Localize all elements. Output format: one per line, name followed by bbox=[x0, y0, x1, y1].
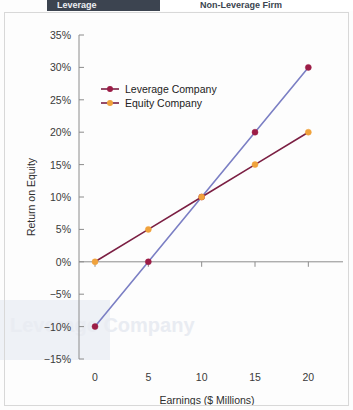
legend-swatch-marker bbox=[107, 86, 113, 92]
y-axis-tick-label: 20% bbox=[50, 126, 71, 138]
series-data-point bbox=[252, 129, 258, 135]
series-data-point bbox=[145, 226, 151, 232]
x-axis: 05101520 bbox=[79, 262, 343, 383]
y-axis-tick-label: 30% bbox=[50, 61, 71, 73]
x-axis-tick-label: 0 bbox=[92, 371, 98, 383]
y-axis-tick-label: −15% bbox=[44, 353, 71, 365]
legend-item-label: Equity Company bbox=[125, 97, 203, 109]
series-data-point bbox=[199, 194, 205, 200]
series-data-point bbox=[305, 129, 311, 135]
y-axis-tick-label: 15% bbox=[50, 159, 71, 171]
header-text-right: Non-Leverage Firm bbox=[200, 0, 282, 11]
y-axis-tick-label: −10% bbox=[44, 321, 71, 333]
x-axis-tick-label: 5 bbox=[145, 371, 151, 383]
legend-item-label: Leverage Company bbox=[125, 83, 217, 95]
series-data-point bbox=[92, 324, 98, 330]
y-axis-tick-label: 10% bbox=[50, 191, 71, 203]
y-axis-title: Return on Equity bbox=[25, 157, 37, 236]
x-axis-tick-label: 20 bbox=[302, 371, 314, 383]
x-axis-tick-label: 15 bbox=[249, 371, 261, 383]
y-axis-tick-label: 0% bbox=[56, 256, 71, 268]
y-axis-tick-label: 5% bbox=[56, 223, 71, 235]
chart-legend: Leverage CompanyEquity Company bbox=[101, 83, 217, 109]
y-axis-tick-label: 35% bbox=[50, 29, 71, 41]
return-on-equity-line-chart: −15%−10%−5%0%5%10%15%20%25%30%35% 051015… bbox=[5, 13, 348, 405]
series-data-point bbox=[252, 162, 258, 168]
x-axis-title: Earnings ($ Millions) bbox=[159, 394, 254, 405]
y-axis-tick-label: 25% bbox=[50, 94, 71, 106]
y-axis: −15%−10%−5%0%5%10%15%20%25%30%35% bbox=[44, 29, 84, 365]
y-axis-tick-label: −5% bbox=[50, 288, 71, 300]
series-data-point bbox=[305, 64, 311, 70]
series-data-point bbox=[92, 259, 98, 265]
chart-frame: −15%−10%−5%0%5%10%15%20%25%30%35% 051015… bbox=[4, 12, 349, 406]
series-data-point bbox=[145, 259, 151, 265]
x-axis-tick-label: 10 bbox=[196, 371, 208, 383]
header-text-left: Leverage bbox=[57, 0, 97, 11]
legend-swatch-marker bbox=[107, 100, 113, 106]
